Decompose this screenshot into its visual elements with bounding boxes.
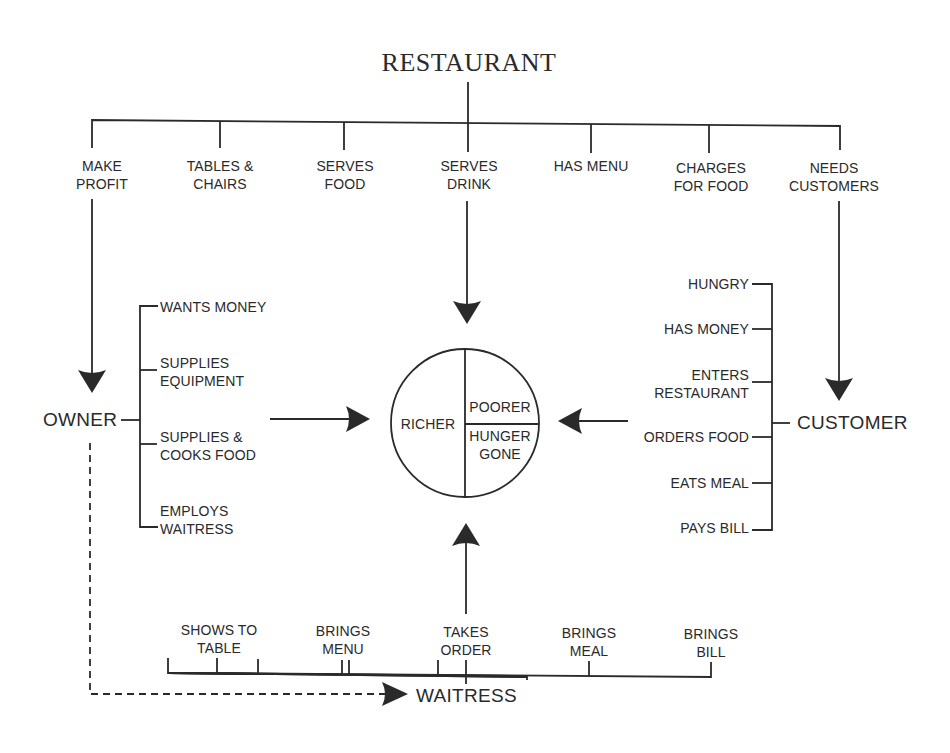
owner-attr-employs-waitress: EMPLOYS WAITRESS	[160, 502, 233, 538]
diagram-title: RESTAURANT	[382, 48, 557, 78]
customer-attr-orders-food: ORDERS FOOD	[644, 428, 749, 446]
waitress-label: WAITRESS	[416, 685, 517, 707]
waitress-attr-shows-to-table: SHOWS TO TABLE	[181, 621, 258, 657]
customer-attr-hungry: HUNGRY	[688, 275, 749, 293]
waitress-attr-brings-menu: BRINGS MENU	[316, 622, 370, 658]
waitress-attr-brings-bill: BRINGS BILL	[684, 625, 738, 661]
customer-attr-pays-bill: PAYS BILL	[680, 519, 749, 537]
waitress-attr-brings-meal: BRINGS MEAL	[562, 624, 616, 660]
attr-has-menu: HAS MENU	[554, 157, 629, 175]
customer-attr-has-money: HAS MONEY	[664, 320, 749, 338]
owner-attr-supplies-equipment: SUPPLIES EQUIPMENT	[160, 354, 244, 390]
circle-hunger-gone: HUNGER GONE	[469, 427, 530, 463]
circle-richer: RICHER	[401, 415, 455, 433]
customer-attr-eats-meal: EATS MEAL	[671, 474, 749, 492]
customer-attr-enters-restaurant: ENTERS RESTAURANT	[654, 366, 749, 402]
restaurant-concept-diagram: RESTAURANT MAKE PROFIT TABLES & CHAIRS S…	[0, 0, 950, 753]
attr-tables-chairs: TABLES & CHAIRS	[187, 157, 254, 193]
waitress-attr-takes-order: TAKES ORDER	[440, 623, 491, 659]
attr-make-profit: MAKE PROFIT	[76, 157, 128, 193]
attr-needs-customers: NEEDS CUSTOMERS	[789, 159, 879, 195]
attr-serves-drink: SERVES DRINK	[440, 157, 497, 193]
customer-label: CUSTOMER	[797, 412, 908, 434]
attr-serves-food: SERVES FOOD	[316, 157, 373, 193]
owner-attr-supplies-cooks-food: SUPPLIES & COOKS FOOD	[160, 428, 256, 464]
circle-poorer: POORER	[469, 398, 530, 416]
owner-label: OWNER	[43, 409, 117, 431]
attr-charges-for-food: CHARGES FOR FOOD	[674, 159, 749, 195]
owner-attr-wants-money: WANTS MONEY	[160, 298, 266, 316]
